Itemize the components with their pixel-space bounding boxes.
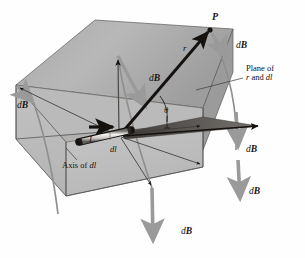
axis-of-dl-label: Axis of dl: [62, 161, 96, 170]
point-p-label: P: [212, 12, 218, 23]
db-vector: B: [251, 144, 257, 154]
db-vector: B: [254, 186, 260, 196]
db-arrow-bottom: [152, 188, 153, 240]
db-vector: B: [154, 73, 160, 83]
diagram-canvas: [0, 0, 305, 258]
axis-label-pre: Axis of: [62, 160, 89, 170]
db-label-bottom: dB: [181, 226, 192, 236]
db-arrow-right-lower: [238, 160, 240, 198]
theta-angle-label: θ: [164, 106, 168, 115]
plane-label-and: and: [249, 72, 266, 82]
db-vector: B: [22, 100, 28, 110]
db-vector: B: [186, 226, 192, 236]
point-p-marker: [207, 27, 212, 32]
plane-label-line2: r and dl: [246, 73, 274, 82]
r-vector-label: r: [183, 44, 187, 54]
biot-savart-diagram: P r I dl θ dB dB dB dB dB dB Plane of r …: [0, 0, 305, 258]
db-label-right-lower: dB: [249, 186, 260, 196]
db-arrow-right-upper: [236, 112, 238, 146]
db-label-left: dB: [17, 100, 28, 110]
current-label: I: [89, 135, 92, 145]
axis-label-dl: dl: [89, 160, 96, 170]
db-vector: B: [241, 40, 247, 50]
db-label-top-right: dB: [236, 40, 247, 50]
dl-element-label: dl: [110, 145, 117, 154]
db-label-right-upper: dB: [246, 144, 257, 154]
plane-of-r-and-dl-label: Plane of r and dl: [246, 64, 274, 82]
db-label-middle: dB: [149, 73, 160, 83]
plane-label-dl: dl: [266, 72, 273, 82]
